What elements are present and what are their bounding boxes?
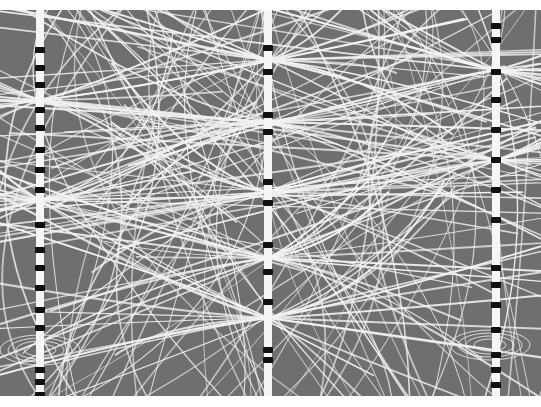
photo-frame <box>0 10 541 396</box>
field-lines-image <box>0 10 541 396</box>
